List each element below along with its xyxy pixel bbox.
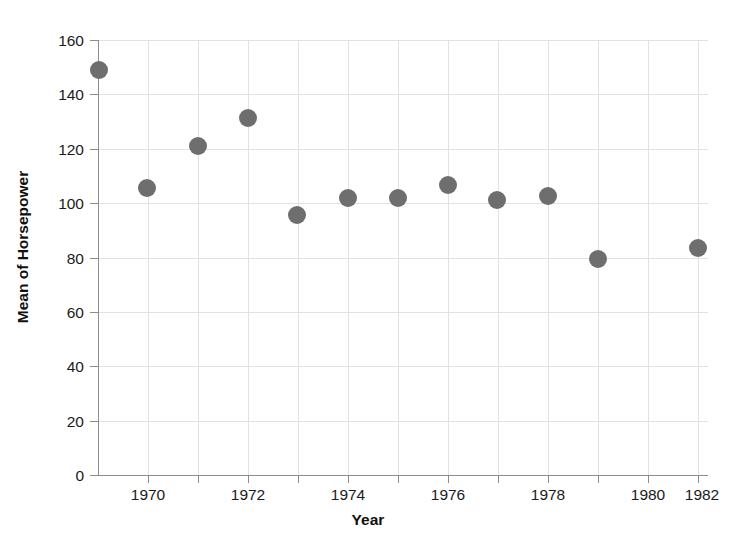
x-axis-tick-label: 1972 <box>231 486 265 504</box>
data-point <box>389 189 407 207</box>
y-axis-title: Mean of Horsepower <box>14 82 32 412</box>
x-axis-tick <box>398 476 399 483</box>
data-point <box>288 206 306 224</box>
x-axis-tick <box>698 476 699 483</box>
y-axis-tick <box>90 149 98 150</box>
x-axis-line <box>98 475 708 476</box>
y-axis-tick <box>90 475 98 476</box>
data-point <box>439 176 457 194</box>
x-axis-tick <box>348 476 349 483</box>
x-axis-tick <box>498 476 499 483</box>
data-point <box>189 137 207 155</box>
gridline-horizontal <box>98 366 708 367</box>
y-axis-tick-label: 100 <box>0 195 84 213</box>
data-point <box>90 61 108 79</box>
data-point <box>138 179 156 197</box>
plot-area <box>98 40 708 475</box>
gridline-horizontal <box>98 258 708 259</box>
x-axis-tick <box>198 476 199 483</box>
y-axis-line <box>98 40 99 476</box>
y-axis-tick-label: 40 <box>0 358 84 376</box>
gridline-horizontal <box>98 312 708 313</box>
y-axis-tick <box>90 203 98 204</box>
y-axis-tick <box>90 312 98 313</box>
x-axis-tick-label: 1978 <box>531 486 565 504</box>
y-axis-tick <box>90 421 98 422</box>
x-axis-tick-label: 1976 <box>431 486 465 504</box>
data-point <box>589 250 607 268</box>
x-axis-tick <box>448 476 449 483</box>
y-axis-tick <box>90 40 98 41</box>
y-axis-tick <box>90 258 98 259</box>
scatter-chart-figure: 160 140 120 100 80 60 40 20 0 1970 1972 … <box>0 0 736 548</box>
x-axis-tick <box>248 476 249 483</box>
gridline-horizontal <box>98 421 708 422</box>
data-point <box>689 239 707 257</box>
data-point <box>239 109 257 127</box>
y-axis-tick-label: 20 <box>0 413 84 431</box>
data-point <box>488 191 506 209</box>
data-point <box>539 187 557 205</box>
gridline-horizontal <box>98 40 708 41</box>
x-axis-tick-label: 1974 <box>331 486 365 504</box>
y-axis-tick-label: 160 <box>0 32 84 50</box>
x-axis-tick <box>548 476 549 483</box>
data-point <box>339 189 357 207</box>
y-axis-tick-label: 140 <box>0 86 84 104</box>
y-axis-tick-label: 80 <box>0 250 84 268</box>
x-axis-tick <box>648 476 649 483</box>
x-axis-tick <box>598 476 599 483</box>
y-axis-tick-label: 60 <box>0 304 84 322</box>
y-axis-tick-label: 0 <box>0 467 84 485</box>
x-axis-tick-label: 1980 <box>631 486 665 504</box>
x-axis-tick <box>298 476 299 483</box>
y-axis-tick <box>90 94 98 95</box>
x-axis-tick <box>148 476 149 483</box>
x-axis-title: Year <box>0 511 736 529</box>
y-axis-tick-label: 120 <box>0 141 84 159</box>
gridline-horizontal <box>98 94 708 95</box>
x-axis-tick-label: 1982 <box>685 486 719 504</box>
x-axis-tick-label: 1970 <box>131 486 165 504</box>
y-axis-tick <box>90 366 98 367</box>
